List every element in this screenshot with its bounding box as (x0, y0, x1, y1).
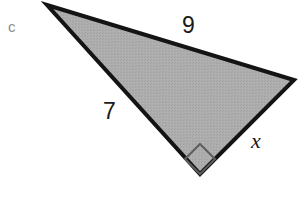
triangle-diagram-svg (0, 0, 301, 218)
part-label: c (8, 19, 16, 34)
geometry-figure: c 9 7 x (0, 0, 301, 218)
side-length-label-top: 9 (182, 14, 195, 37)
side-length-label-unknown: x (251, 130, 261, 152)
side-length-label-left: 7 (103, 100, 116, 123)
